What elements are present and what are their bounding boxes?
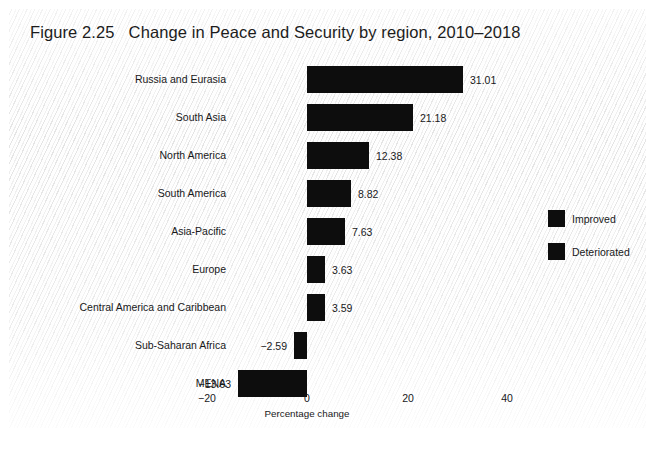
bar-chart-plot-area: Russia and Eurasia South Asia North Amer… — [0, 0, 656, 450]
bar-asia-pacific — [307, 218, 345, 245]
bar-sub-saharan-africa — [294, 332, 307, 359]
bar-europe — [307, 256, 325, 283]
bar-south-america — [307, 180, 351, 207]
category-label-south-america: South America — [0, 187, 226, 199]
bar-south-asia — [307, 104, 413, 131]
category-label-russia-and-eurasia: Russia and Eurasia — [0, 73, 226, 85]
value-label-central-america-and-caribbean: 3.59 — [332, 302, 352, 314]
legend-label-deteriorated: Deteriorated — [572, 246, 630, 258]
value-label-europe: 3.63 — [332, 264, 352, 276]
category-label-asia-pacific: Asia-Pacific — [0, 225, 226, 237]
category-label-north-america: North America — [0, 149, 226, 161]
value-label-sub-saharan-africa: −2.59 — [249, 340, 287, 352]
legend-swatch-improved — [548, 210, 565, 227]
xtick-label-0: 0 — [287, 392, 327, 404]
legend-label-improved: Improved — [572, 213, 616, 225]
category-label-central-america-and-caribbean: Central America and Caribbean — [0, 301, 226, 313]
category-label-south-asia: South Asia — [0, 111, 226, 123]
legend-swatch-deteriorated — [548, 243, 565, 260]
value-label-south-asia: 21.18 — [420, 112, 446, 124]
xtick-label-20: 20 — [388, 392, 428, 404]
value-label-asia-pacific: 7.63 — [352, 226, 372, 238]
value-label-mena: −13.63 — [186, 378, 231, 390]
bar-russia-and-eurasia — [307, 66, 463, 93]
bar-central-america-and-caribbean — [307, 294, 325, 321]
value-label-south-america: 8.82 — [358, 188, 378, 200]
x-axis-title: Percentage change — [207, 408, 407, 419]
value-label-north-america: 12.38 — [376, 150, 402, 162]
figure-container: Figure 2.25 Change in Peace and Security… — [0, 0, 656, 450]
xtick-label-minus20: −20 — [187, 392, 227, 404]
bar-north-america — [307, 142, 369, 169]
value-label-russia-and-eurasia: 31.01 — [470, 74, 496, 86]
category-label-europe: Europe — [0, 263, 226, 275]
xtick-label-40: 40 — [487, 392, 527, 404]
category-label-sub-saharan-africa: Sub-Saharan Africa — [0, 339, 226, 351]
